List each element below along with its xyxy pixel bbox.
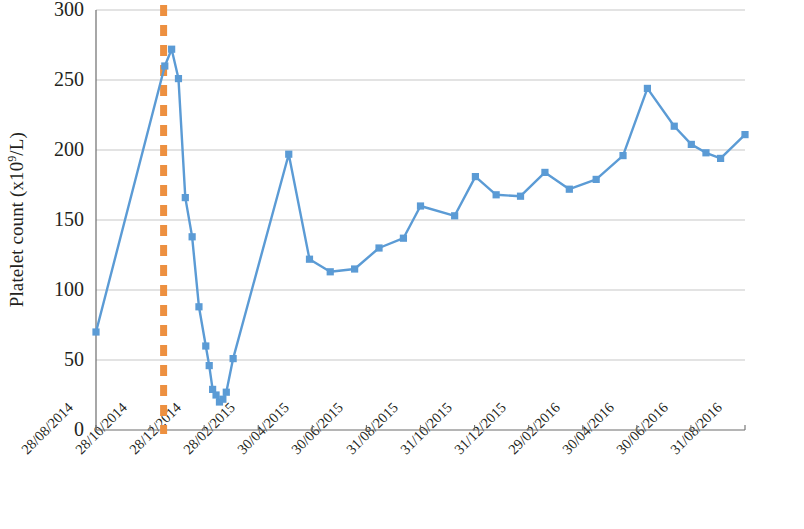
data-point-marker xyxy=(219,396,226,403)
data-point-marker xyxy=(230,355,237,362)
plot-area xyxy=(0,0,804,529)
data-point-marker xyxy=(593,176,600,183)
data-point-marker xyxy=(168,46,175,53)
data-point-marker xyxy=(306,256,313,263)
data-point-marker xyxy=(493,191,500,198)
platelet-count-series-line xyxy=(96,49,745,402)
data-point-marker xyxy=(688,141,695,148)
data-point-marker xyxy=(212,391,219,398)
data-point-marker xyxy=(619,152,626,159)
data-point-marker xyxy=(175,75,182,82)
data-point-marker xyxy=(644,85,651,92)
data-point-marker xyxy=(92,328,99,335)
data-point-marker xyxy=(189,233,196,240)
data-point-marker xyxy=(517,193,524,200)
data-point-marker xyxy=(472,173,479,180)
data-point-marker xyxy=(671,123,678,130)
data-point-marker xyxy=(285,151,292,158)
data-point-marker xyxy=(327,268,334,275)
data-point-marker xyxy=(206,362,213,369)
data-point-marker xyxy=(195,303,202,310)
data-point-marker xyxy=(161,62,168,69)
gridlines xyxy=(96,10,745,360)
data-point-marker xyxy=(375,244,382,251)
data-point-marker xyxy=(351,265,358,272)
data-point-marker xyxy=(717,155,724,162)
data-point-marker xyxy=(566,186,573,193)
platelet-count-line-chart: Platelet count (x109/L) 3002502001501005… xyxy=(0,0,804,529)
data-point-marker xyxy=(182,194,189,201)
data-point-marker xyxy=(702,149,709,156)
data-point-marker xyxy=(541,169,548,176)
data-point-marker xyxy=(202,342,209,349)
data-point-marker xyxy=(223,389,230,396)
data-point-marker xyxy=(400,235,407,242)
data-point-marker xyxy=(741,131,748,138)
data-point-marker xyxy=(451,212,458,219)
x-axis-tick-marks xyxy=(96,425,745,430)
data-point-marker xyxy=(417,202,424,209)
series-polyline xyxy=(96,49,745,402)
